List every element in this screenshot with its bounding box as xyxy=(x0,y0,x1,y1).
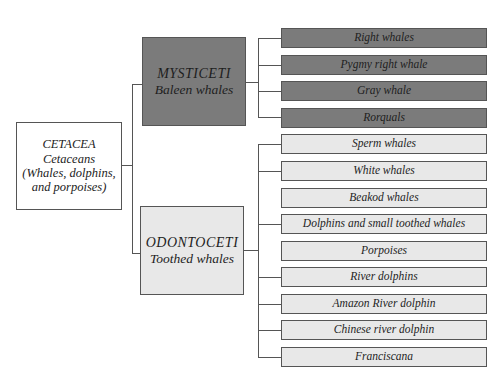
family-amazon-river-dolphin: Amazon River dolphin xyxy=(281,294,487,314)
mysticeti-common-name: Baleen whales xyxy=(155,82,233,98)
connector xyxy=(258,38,259,118)
cetacea-description-1: (Whales, dolphins, xyxy=(22,166,115,180)
family-dolphins: Dolphins and small toothed whales xyxy=(281,214,487,234)
connector xyxy=(258,144,281,145)
odontoceti-node: ODONTOCETI Toothed whales xyxy=(140,206,244,295)
connector xyxy=(258,144,259,358)
connector xyxy=(258,224,281,225)
connector xyxy=(258,65,281,66)
cetacea-node: CETACEA Cetaceans (Whales, dolphins, and… xyxy=(16,122,122,210)
connector xyxy=(258,330,281,331)
odontoceti-title: ODONTOCETI xyxy=(146,235,239,251)
family-white-whales: White whales xyxy=(281,161,487,181)
mysticeti-title: MYSTICETI xyxy=(157,66,231,82)
family-right-whales: Right whales xyxy=(281,28,487,48)
connector xyxy=(258,117,281,118)
family-rorquals: Rorquals xyxy=(281,108,487,128)
family-pygmy-right-whale: Pygmy right whale xyxy=(281,55,487,75)
connector xyxy=(258,304,281,305)
family-sperm-whales: Sperm whales xyxy=(281,134,487,154)
connector xyxy=(258,171,281,172)
connector xyxy=(258,38,281,39)
odontoceti-common-name: Toothed whales xyxy=(150,251,234,267)
mysticeti-node: MYSTICETI Baleen whales xyxy=(142,37,246,126)
cetacea-title: CETACEA xyxy=(42,137,95,151)
connector xyxy=(244,250,259,251)
connector xyxy=(258,91,281,92)
family-beaked-whales: Beakod whales xyxy=(281,188,487,208)
connector xyxy=(132,84,133,254)
family-franciscana: Franciscana xyxy=(281,347,487,367)
cetacea-common-name: Cetaceans xyxy=(43,152,95,166)
family-porpoises: Porpoises xyxy=(281,241,487,261)
family-chinese-river-dolphin: Chinese river dolphin xyxy=(281,320,487,340)
connector xyxy=(258,357,281,358)
family-river-dolphins: River dolphins xyxy=(281,267,487,287)
cetacea-description-2: and porpoises) xyxy=(32,180,107,194)
family-gray-whale: Gray whale xyxy=(281,81,487,101)
connector xyxy=(258,277,281,278)
